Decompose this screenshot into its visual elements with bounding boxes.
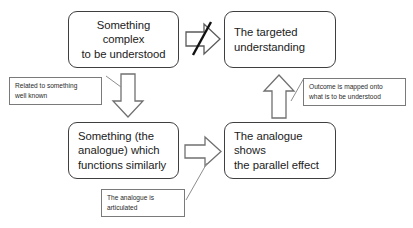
blocked-direct-arrow-icon bbox=[185, 19, 223, 59]
node-source-problem-label: Something complex to be understood bbox=[78, 18, 169, 62]
callout-related-note-label: Related to something well known bbox=[15, 81, 77, 101]
node-target-understanding: The targeted understanding bbox=[224, 11, 336, 68]
callout-articulated-note: The analogue is articulated bbox=[101, 189, 185, 217]
callout-articulated-note-label: The analogue is articulated bbox=[107, 193, 154, 213]
node-analogue: Something (the analogue) which functions… bbox=[68, 122, 179, 179]
node-parallel-effect-label: The analogue shows the parallel effect bbox=[234, 129, 326, 173]
callout-outcome-note: Outcome is mapped onto what is to be und… bbox=[303, 78, 406, 106]
node-analogue-label: Something (the analogue) which functions… bbox=[78, 129, 169, 173]
node-parallel-effect: The analogue shows the parallel effect bbox=[224, 122, 336, 179]
diagram-canvas: Something complex to be understood The t… bbox=[0, 0, 413, 228]
callout-outcome-note-label: Outcome is mapped onto what is to be und… bbox=[309, 82, 383, 102]
leader-line-articulated-note bbox=[186, 163, 208, 201]
node-target-understanding-label: The targeted understanding bbox=[234, 25, 326, 54]
callout-related-note: Related to something well known bbox=[9, 77, 102, 105]
leader-line-related-note bbox=[106, 76, 122, 88]
node-source-problem: Something complex to be understood bbox=[68, 11, 179, 68]
